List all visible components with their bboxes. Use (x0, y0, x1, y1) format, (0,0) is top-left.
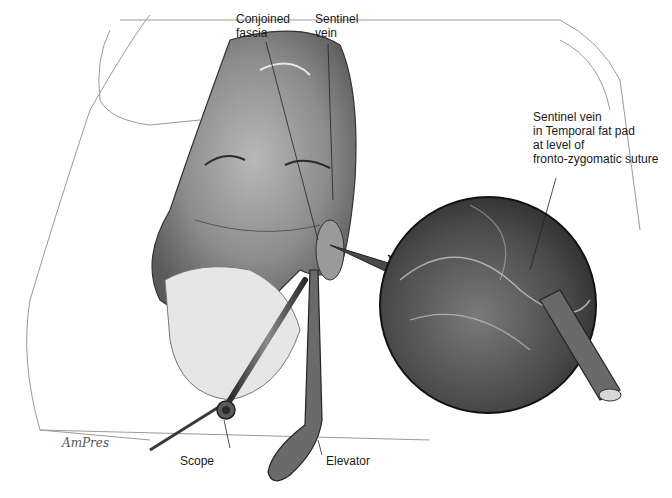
surgical-illustration: AmPres (0, 0, 672, 498)
patient-head (152, 31, 356, 400)
label-scope: Scope (180, 454, 214, 468)
endoscopic-inset-view (380, 197, 621, 413)
label-sentinel-vein-detail: Sentinel vein in Temporal fat pad at lev… (533, 110, 658, 166)
label-elevator: Elevator (326, 454, 370, 468)
label-conjoined-fascia: Conjoined fascia (236, 12, 290, 40)
label-sentinel-vein: Sentinel vein (315, 12, 358, 40)
artist-signature: AmPres (61, 436, 109, 450)
